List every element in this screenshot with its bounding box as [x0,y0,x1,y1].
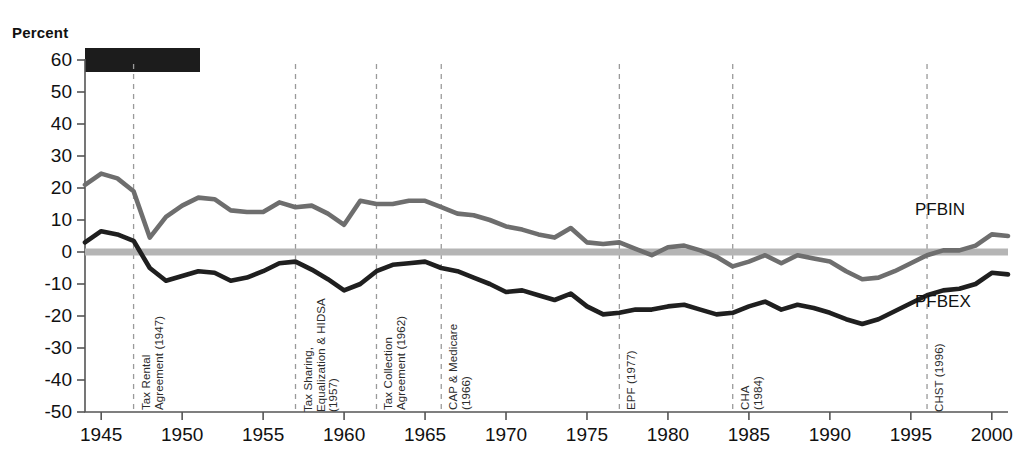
event-annotation: Tax RentalAgreement (1947) [140,316,165,410]
x-axis-tick-label: 1960 [323,424,365,446]
event-annotation-line: CHST (1996) [933,343,946,412]
event-annotation-line: (1984) [751,376,764,410]
event-annotation-line: CHA [739,376,752,410]
event-annotation: CHST (1996) [933,343,946,412]
x-axis-tick-label: 1975 [566,424,608,446]
x-axis-tick-label: 1985 [728,424,770,446]
y-axis-tick-label: 30 [14,145,72,167]
series-label-pfbex: PFBEX [915,292,971,312]
x-axis-tick-label: 1950 [161,424,203,446]
x-axis-tick-label: 1990 [809,424,851,446]
event-annotation-line: Agreement (1962) [395,316,408,410]
event-annotation-line: Tax Rental [140,316,153,410]
y-axis-tick-label: -20 [14,305,72,327]
x-axis-tick-label: 1995 [890,424,932,446]
event-annotation-line: Tax Sharing, [302,298,315,412]
x-axis-tick-label: 2000 [971,424,1013,446]
x-axis-tick-label: 1980 [647,424,689,446]
y-axis-tick-label: 20 [14,177,72,199]
x-axis-tick-label: 1955 [242,424,284,446]
x-axis-tick-label: 1965 [404,424,446,446]
event-annotation-line: Tax Collection [382,316,395,410]
event-annotation-line: Agreement (1947) [152,316,165,410]
y-axis-tick-label: -30 [14,337,72,359]
event-annotation: Tax Sharing,Equalization & HIDSA(1957) [302,298,340,412]
y-axis-tick-label: -10 [14,273,72,295]
event-annotation-line: (1957) [327,298,340,412]
event-annotation: CAP & Medicare(1966) [447,324,472,410]
event-annotation: CHA(1984) [739,376,764,410]
event-annotation: EPF (1977) [625,350,638,410]
event-annotation-line: EPF (1977) [625,350,638,410]
y-axis-tick-label: 40 [14,113,72,135]
event-annotation: Tax CollectionAgreement (1962) [382,316,407,410]
y-axis-tick-label: -50 [14,401,72,423]
event-annotation-line: (1966) [460,324,473,410]
event-annotation-line: Equalization & HIDSA [314,298,327,412]
y-axis-tick-label: 0 [14,241,72,263]
y-axis-tick-label: -40 [14,369,72,391]
series-label-pfbin: PFBIN [915,200,965,220]
chart-figure: Percent PFBIN PFBEX 6050403020100-10-20-… [0,0,1014,468]
x-axis-tick-label: 1945 [80,424,122,446]
y-axis-tick-label: 50 [14,81,72,103]
y-axis-tick-label: 60 [14,49,72,71]
event-annotation-line: CAP & Medicare [447,324,460,410]
y-axis-tick-label: 10 [14,209,72,231]
x-axis-tick-label: 1970 [485,424,527,446]
